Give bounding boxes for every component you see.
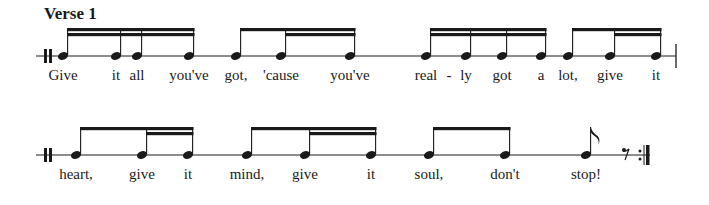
repeat-dot — [639, 158, 642, 161]
lyric-hyphen: - — [447, 67, 452, 84]
lyric-syllable: lot, — [558, 67, 578, 84]
lyric-syllable: stop! — [571, 166, 601, 183]
lyric-syllable: it — [184, 166, 192, 183]
beam — [572, 28, 662, 31]
lyric-syllable: you've — [169, 67, 208, 84]
lyric-syllable: real — [415, 67, 437, 84]
lyric-syllable: it — [112, 67, 120, 84]
lyric-syllable: give — [597, 67, 623, 84]
rhythm-score — [0, 0, 709, 205]
lyric-syllable: a — [538, 67, 545, 84]
beam — [146, 132, 194, 135]
lyric-syllable: you've — [330, 67, 369, 84]
lyric-syllable: give — [129, 166, 155, 183]
start-barline — [49, 148, 52, 162]
lyric-syllable: it — [367, 166, 375, 183]
beam — [433, 127, 511, 130]
lyric-syllable: got — [492, 67, 511, 84]
start-barline — [44, 148, 47, 162]
beam — [80, 127, 194, 130]
beam — [614, 33, 662, 36]
beam — [285, 33, 356, 36]
lyric-syllable: Give — [48, 67, 77, 84]
beam — [251, 127, 377, 130]
lyric-syllable: 'cause — [263, 67, 299, 84]
beam — [430, 28, 547, 31]
end-repeat-barline — [646, 145, 650, 165]
lyric-syllable: got, — [225, 67, 248, 84]
lyric-syllable: it — [652, 67, 660, 84]
beam — [309, 132, 377, 135]
lyric-syllable: heart, — [59, 166, 93, 183]
lyric-syllable: give — [292, 166, 318, 183]
beam — [67, 28, 195, 31]
lyric-syllable: soul, — [415, 166, 444, 183]
lyric-syllable: mind, — [230, 166, 265, 183]
start-barline — [49, 49, 52, 63]
lyric-syllable: don't — [490, 166, 519, 183]
start-barline — [44, 49, 47, 63]
lyric-syllable: ly — [460, 67, 472, 84]
lyric-syllable: all — [130, 67, 145, 84]
repeat-dot — [639, 150, 642, 153]
flag — [591, 127, 600, 145]
beam — [67, 33, 195, 36]
beam — [430, 33, 547, 36]
beam — [240, 28, 356, 31]
